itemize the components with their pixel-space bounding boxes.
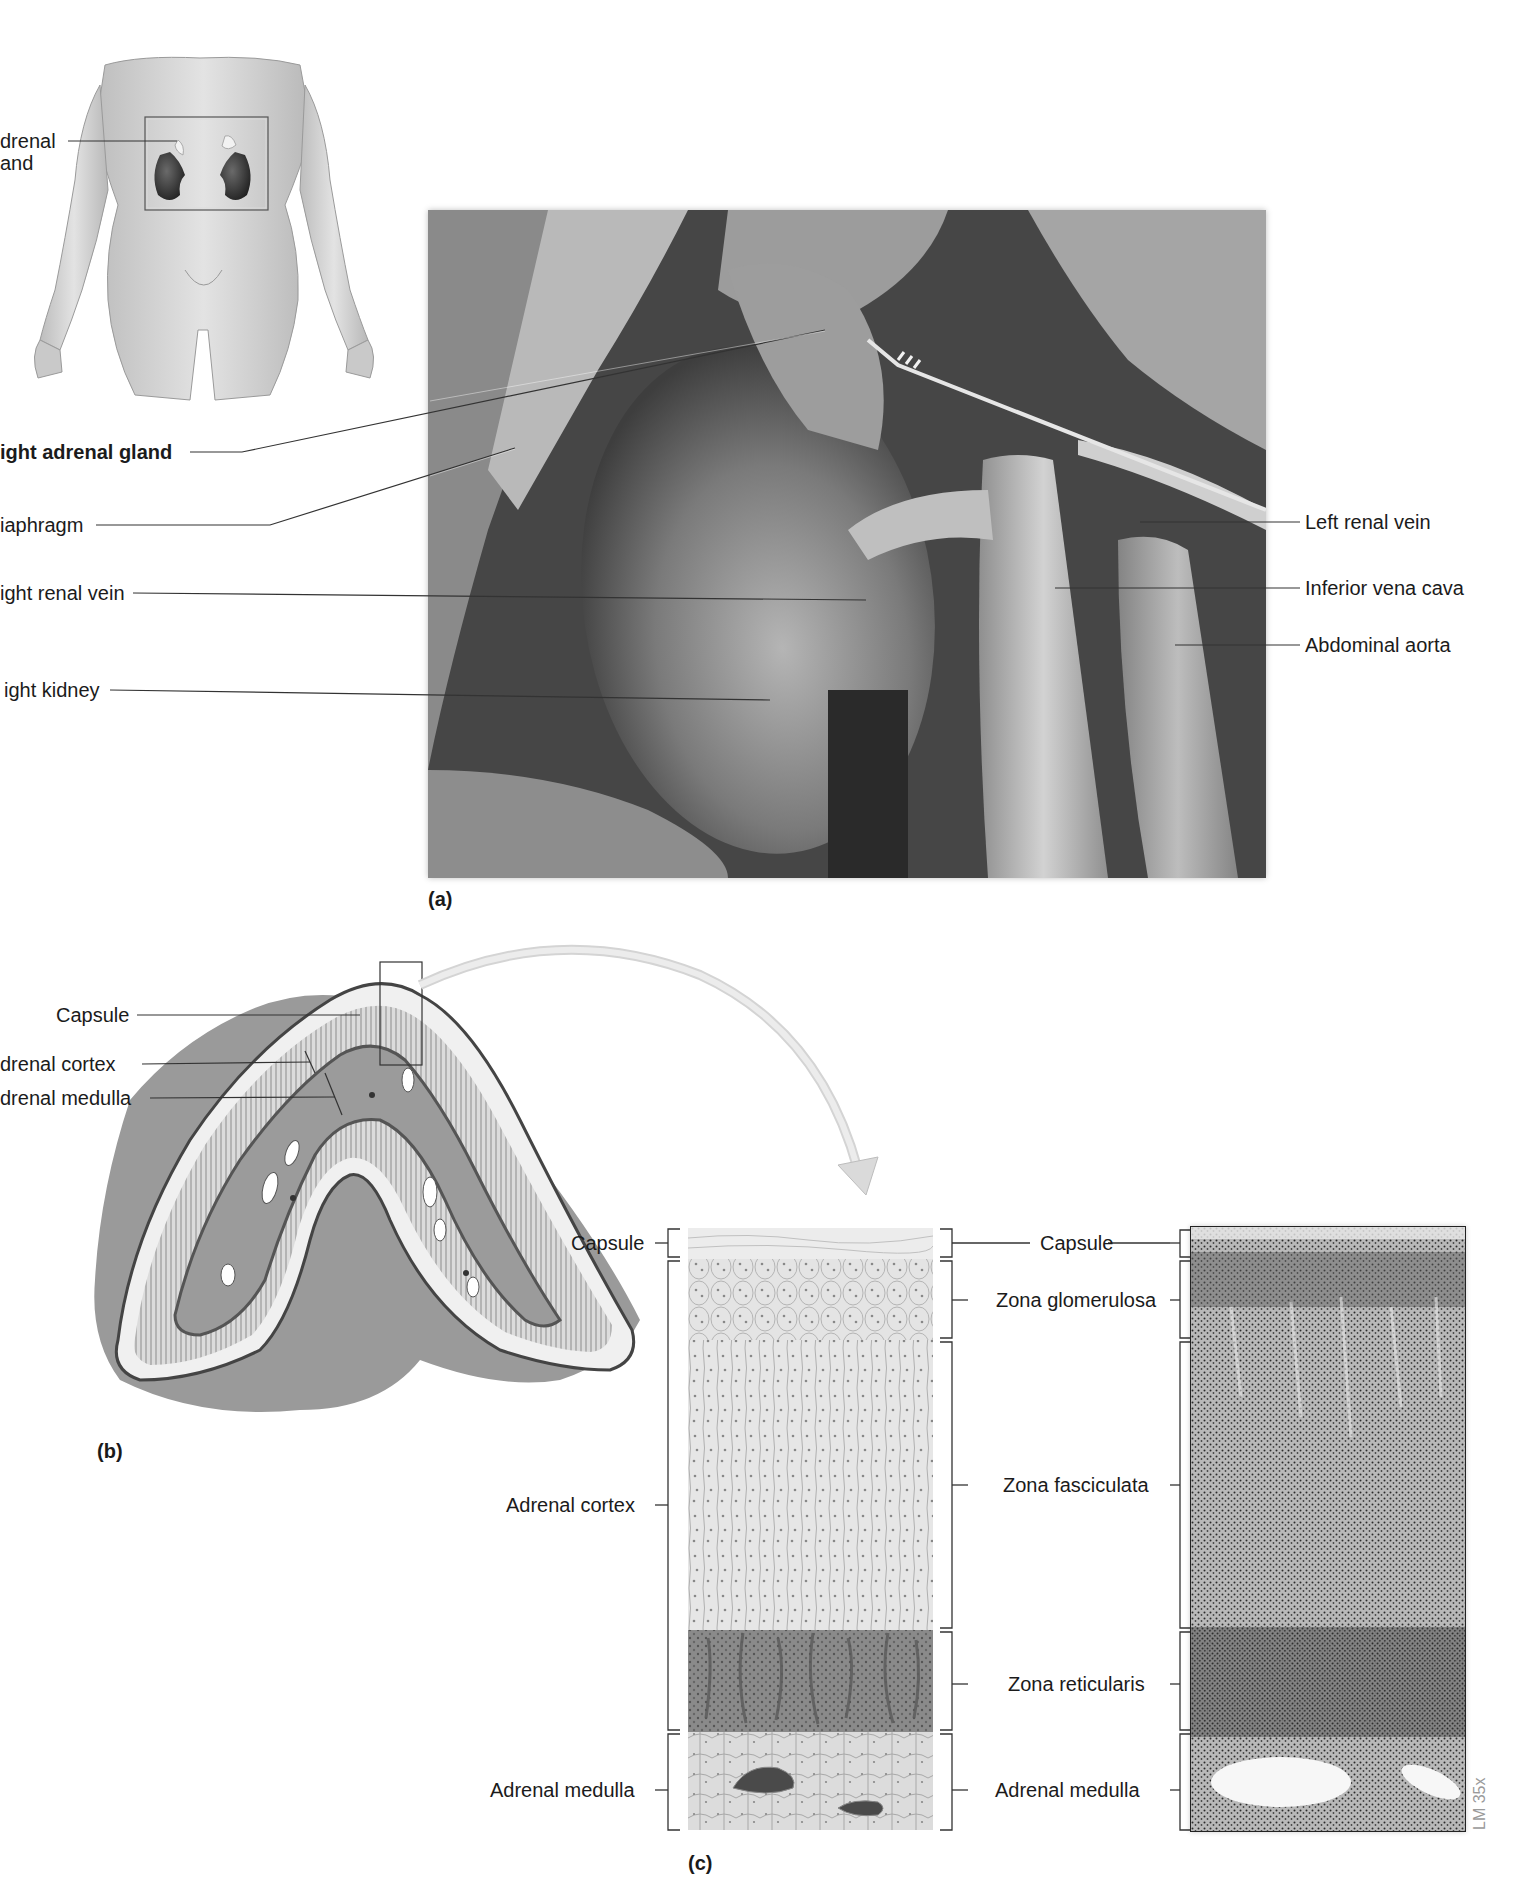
label-b-adrenal-medulla: drenal medulla	[0, 1087, 131, 1109]
label-c-zona-reticularis: Zona reticularis	[1008, 1673, 1145, 1695]
layer-zona-glomerulosa	[688, 1259, 933, 1340]
body-inset-figure	[0, 0, 420, 420]
label-b-adrenal-cortex: drenal cortex	[0, 1053, 116, 1075]
panel-a-tag: (a)	[428, 888, 452, 911]
layer-zona-fasciculata	[688, 1340, 933, 1630]
inset-label-line2: and	[0, 152, 56, 174]
panel-c-tag: (c)	[688, 1852, 712, 1875]
label-inferior-vena-cava: Inferior vena cava	[1305, 577, 1464, 599]
label-right-adrenal-gland: ight adrenal gland	[0, 441, 172, 463]
label-c-zona-glomerulosa: Zona glomerulosa	[996, 1289, 1156, 1311]
label-c-capsule-left: Capsule	[571, 1232, 644, 1254]
layer-capsule	[688, 1228, 933, 1259]
vessel-lumen	[1211, 1757, 1351, 1807]
inset-label-line1: drenal	[0, 130, 56, 152]
human-body-illustration	[0, 0, 420, 420]
label-c-adrenal-cortex-left: Adrenal cortex	[506, 1494, 635, 1516]
cortex-layer-illustration	[688, 1228, 933, 1830]
label-right-renal-vein: ight renal vein	[0, 582, 125, 604]
magnification-label: LM 35x	[1471, 1778, 1489, 1830]
label-b-capsule: Capsule	[56, 1004, 129, 1026]
inset-label-adrenal-gland: drenal and	[0, 130, 56, 174]
label-c-zona-fasciculata: Zona fasciculata	[1003, 1474, 1149, 1496]
light-micrograph	[1190, 1226, 1466, 1832]
panel-b-tag: (b)	[97, 1440, 123, 1463]
label-c-adrenal-medulla-left: Adrenal medulla	[490, 1779, 635, 1801]
label-c-adrenal-medulla-right: Adrenal medulla	[995, 1779, 1140, 1801]
label-c-capsule-right: Capsule	[1040, 1232, 1113, 1254]
label-left-renal-vein: Left renal vein	[1305, 511, 1431, 533]
layer-adrenal-medulla	[688, 1732, 933, 1830]
cadaver-dissection-photo	[428, 210, 1266, 878]
label-right-kidney: ight kidney	[4, 679, 100, 701]
label-diaphragm: iaphragm	[0, 514, 83, 536]
label-abdominal-aorta: Abdominal aorta	[1305, 634, 1451, 656]
